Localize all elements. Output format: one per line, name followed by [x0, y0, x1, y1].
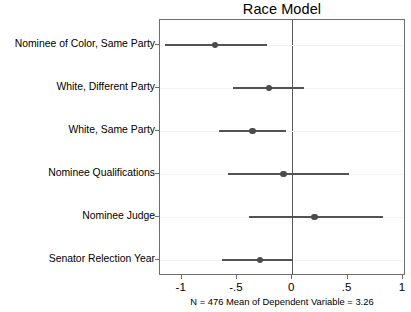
category-tick-mark [155, 216, 159, 217]
category-axis-labels: Nominee of Color, Same PartyWhite, Diffe… [0, 0, 155, 312]
category-tick-mark [155, 259, 159, 260]
zero-reference-line [292, 20, 293, 274]
x-axis-tick-label: 1 [399, 280, 405, 294]
estimate-point [212, 42, 218, 48]
x-axis-tick-label: 0 [288, 280, 294, 294]
category-label: Nominee Judge [82, 210, 155, 222]
category-label: Senator Relection Year [49, 253, 155, 265]
category-label: Nominee Qualifications [48, 167, 155, 179]
x-axis-tick-mark [347, 275, 348, 279]
figure-note: N = 476 Mean of Dependent Variable = 3.2… [159, 296, 405, 308]
category-tick-mark [155, 87, 159, 88]
estimate-point [280, 171, 286, 177]
forest-plot-figure: Race Model Nominee of Color, Same PartyW… [0, 0, 411, 312]
estimate-point [257, 257, 263, 263]
estimate-point [311, 214, 317, 220]
estimate-point [249, 128, 255, 134]
category-label: White, Different Party [56, 81, 155, 93]
category-tick-mark [155, 173, 159, 174]
chart-title: Race Model [159, 0, 405, 18]
x-axis-tick-mark [181, 275, 182, 279]
category-label: Nominee of Color, Same Party [15, 38, 155, 50]
x-axis-tick-mark [402, 275, 403, 279]
x-axis-tick-label: .5 [342, 280, 352, 294]
confidence-interval-bar [228, 173, 349, 174]
x-axis-tick-mark [236, 275, 237, 279]
estimate-point [266, 85, 272, 91]
x-axis-tick-label: -1 [176, 280, 186, 294]
category-tick-mark [155, 44, 159, 45]
plot-area [159, 19, 405, 275]
x-axis-tick-label: -.5 [229, 280, 242, 294]
category-tick-mark [155, 130, 159, 131]
x-axis-tick-mark [291, 275, 292, 279]
category-label: White, Same Party [68, 124, 155, 136]
